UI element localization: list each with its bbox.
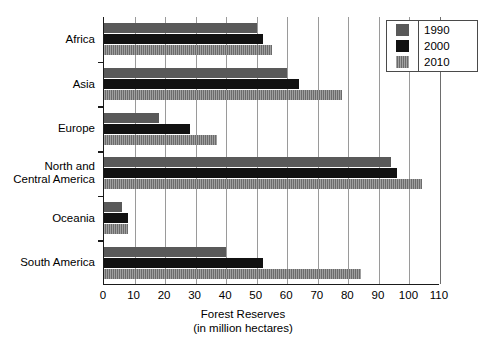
forest-reserves-bar-chart: AfricaAsiaEuropeNorth and Central Americ…: [0, 0, 486, 343]
x-axis-tick-label: 50: [249, 289, 262, 301]
legend-swatch-2000: [396, 40, 409, 52]
y-axis-tick: [98, 106, 103, 108]
y-axis-label: Africa: [66, 33, 95, 46]
x-axis-tick-label: 20: [158, 289, 171, 301]
x-axis-tick-label: 110: [430, 289, 448, 301]
bar-group: [104, 196, 439, 241]
legend-swatch-1990: [396, 24, 409, 36]
x-axis-tick-label: 10: [127, 289, 140, 301]
bar-1990: [104, 247, 226, 257]
bar-1990: [104, 23, 257, 33]
bar-1990: [104, 157, 391, 167]
bar-group: [104, 106, 439, 151]
x-axis-title-line1: Forest Reserves: [201, 308, 285, 320]
y-axis-label: North and Central America: [13, 160, 95, 186]
x-axis-tick-label: 60: [280, 289, 293, 301]
bar-group: [104, 240, 439, 285]
y-axis-label: Europe: [58, 122, 95, 135]
x-axis-title: Forest Reserves (in million hectares): [0, 307, 486, 335]
bar-2010: [104, 135, 217, 145]
y-axis-tick: [98, 62, 103, 64]
y-axis-tick: [98, 151, 103, 153]
y-axis-tick: [98, 240, 103, 242]
legend: 199020002010: [386, 20, 478, 72]
x-axis-tick-label: 80: [341, 289, 354, 301]
y-axis-label: South America: [20, 256, 95, 269]
legend-item-2010[interactable]: 2010: [387, 54, 477, 70]
y-axis-label: Oceania: [52, 212, 95, 225]
bar-2000: [104, 168, 397, 178]
bar-2010: [104, 179, 422, 189]
bar-1990: [104, 202, 122, 212]
legend-label-2000: 2000: [424, 38, 450, 54]
bar-2000: [104, 124, 190, 134]
x-axis-tick-label: 0: [100, 289, 106, 301]
bar-2010: [104, 45, 272, 55]
legend-swatch-2010: [396, 56, 409, 68]
x-axis-tick-label: 70: [310, 289, 323, 301]
bar-2000: [104, 79, 299, 89]
legend-item-2000[interactable]: 2000: [387, 38, 477, 54]
legend-item-1990[interactable]: 1990: [387, 22, 477, 38]
x-axis-tick-label: 40: [219, 289, 232, 301]
bar-2000: [104, 258, 263, 268]
x-axis-title-line2: (in million hectares): [0, 321, 486, 335]
bar-group: [104, 151, 439, 196]
bar-2000: [104, 34, 263, 44]
legend-label-2010: 2010: [424, 54, 450, 70]
bar-2010: [104, 269, 361, 279]
y-axis-label: Asia: [73, 78, 95, 91]
legend-label-1990: 1990: [424, 22, 450, 38]
x-axis-tick-label: 30: [188, 289, 201, 301]
bar-1990: [104, 113, 159, 123]
bar-2000: [104, 213, 128, 223]
bar-2010: [104, 224, 128, 234]
x-axis-tick-label: 100: [399, 289, 418, 301]
bar-1990: [104, 68, 287, 78]
bar-2010: [104, 90, 342, 100]
x-axis-tick-label: 90: [372, 289, 385, 301]
y-axis-tick: [98, 196, 103, 198]
